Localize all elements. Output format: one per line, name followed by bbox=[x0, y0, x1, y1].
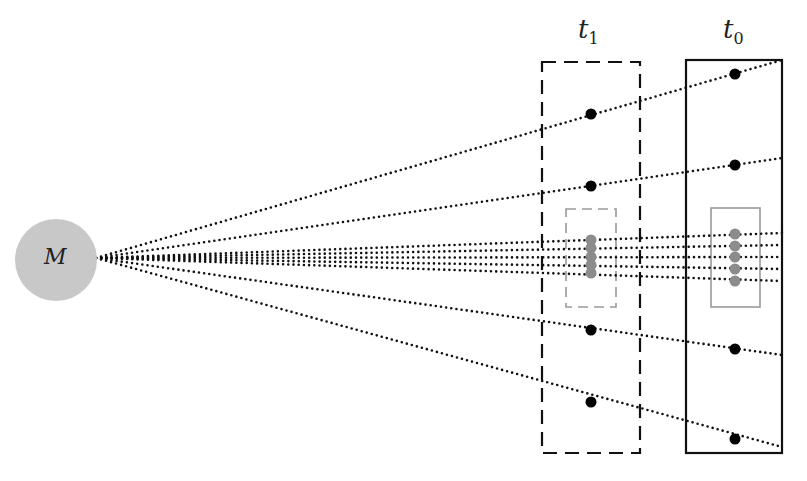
ray bbox=[96, 257, 782, 258]
point-t1 bbox=[586, 109, 597, 120]
ray bbox=[96, 258, 782, 269]
ray bbox=[96, 258, 782, 355]
ray bbox=[96, 245, 782, 258]
inner-point-t0 bbox=[730, 276, 741, 287]
ray bbox=[96, 158, 782, 258]
ray bbox=[96, 258, 782, 281]
ray bbox=[96, 60, 782, 258]
inner-point-t0 bbox=[730, 241, 741, 252]
point-t0 bbox=[730, 69, 741, 80]
point-t0 bbox=[730, 160, 741, 171]
rays bbox=[96, 60, 782, 447]
inner-point-t0 bbox=[730, 229, 741, 240]
ray bbox=[96, 258, 782, 447]
light-cone-diagram bbox=[0, 0, 807, 481]
point-t1 bbox=[586, 181, 597, 192]
ray bbox=[96, 233, 782, 258]
point-t0 bbox=[730, 344, 741, 355]
frame-label-t0: t0 bbox=[723, 14, 744, 48]
inner-point-t0 bbox=[730, 264, 741, 275]
source-label: M bbox=[44, 244, 67, 269]
point-t1 bbox=[586, 397, 597, 408]
point-t0 bbox=[730, 434, 741, 445]
frame-label-t1: t1 bbox=[578, 14, 599, 48]
point-t1 bbox=[586, 325, 597, 336]
inner-point-t0 bbox=[730, 252, 741, 263]
inner-point-t1 bbox=[586, 268, 597, 279]
